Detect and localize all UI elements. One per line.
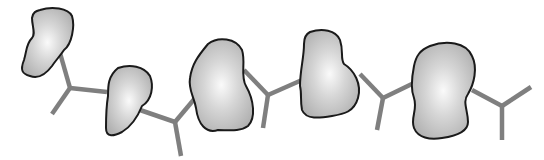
connector-arm <box>60 53 70 88</box>
connector-arm <box>502 87 531 106</box>
y-connector <box>472 87 531 140</box>
connector-arm <box>175 122 181 156</box>
connector-arm <box>268 80 302 95</box>
y-connector <box>360 74 416 130</box>
connector-arm <box>175 97 196 122</box>
blob-3 <box>190 39 253 131</box>
connector-arm <box>70 88 107 92</box>
connector-arm <box>140 110 175 122</box>
connector-arm <box>377 98 383 130</box>
y-connector <box>140 97 196 156</box>
connector-arm <box>472 90 502 106</box>
connector-arm <box>263 95 268 128</box>
connector-arm <box>360 74 383 98</box>
blob-4 <box>300 30 359 118</box>
y-connector <box>52 53 107 114</box>
connector-arm <box>52 88 70 114</box>
blob-2 <box>106 66 152 135</box>
blob-5 <box>412 43 475 139</box>
blob-chain-diagram <box>0 0 544 160</box>
